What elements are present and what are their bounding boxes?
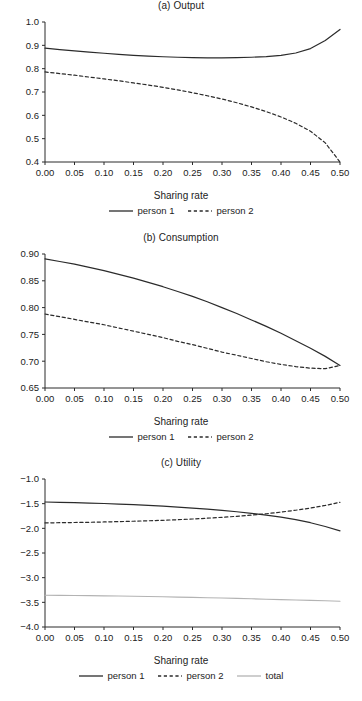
x-tick-label: 0.30 — [213, 167, 232, 178]
x-tick-label: 0.40 — [272, 393, 291, 404]
y-tick-label: −3.5 — [20, 597, 39, 608]
legend-label: person 2 — [187, 670, 224, 681]
legend-item: total — [237, 670, 284, 681]
panel-utility: (c) Utility −4.0−3.5−3.0−2.5−2.0−1.5−1.0… — [0, 457, 362, 701]
legend-item: person 2 — [188, 431, 254, 442]
y-tick-label: 0.75 — [21, 329, 40, 340]
x-tick-label: 0.25 — [183, 632, 202, 643]
x-tick-label: 0.50 — [331, 167, 350, 178]
series-line — [45, 502, 340, 531]
panel-b-title: (b) Consumption — [0, 232, 362, 244]
x-tick-label: 0.45 — [301, 632, 320, 643]
panel-b-plot: 0.650.700.750.800.850.900.000.050.100.15… — [0, 244, 362, 416]
x-tick-label: 0.15 — [124, 167, 143, 178]
y-tick-label: −1.5 — [20, 498, 39, 509]
panel-b-xlabel: Sharing rate — [0, 416, 362, 428]
y-tick-label: −3.0 — [20, 572, 39, 583]
series-line — [45, 595, 340, 601]
legend-item: person 1 — [109, 431, 175, 442]
y-tick-label: 0.5 — [26, 133, 39, 144]
panel-c-svg: −4.0−3.5−3.0−2.5−2.0−1.5−1.00.000.050.10… — [0, 469, 362, 655]
panel-b-legend: person 1person 2 — [0, 431, 362, 442]
x-tick-label: 0.45 — [301, 393, 320, 404]
y-tick-label: 0.70 — [21, 356, 40, 367]
legend-label: person 1 — [108, 670, 145, 681]
panel-consumption: (b) Consumption 0.650.700.750.800.850.90… — [0, 232, 362, 457]
legend-line-icon — [109, 433, 133, 441]
legend-item: person 2 — [188, 205, 254, 216]
x-tick-label: 0.10 — [95, 632, 114, 643]
legend-line-icon — [237, 672, 261, 680]
y-tick-label: 0.9 — [26, 40, 39, 51]
legend-label: person 2 — [217, 205, 254, 216]
legend-line-icon — [109, 207, 133, 215]
x-tick-label: 0.50 — [331, 393, 350, 404]
y-tick-label: −2.0 — [20, 523, 39, 534]
legend-line-icon — [158, 672, 182, 680]
legend-line-icon — [188, 433, 212, 441]
x-tick-label: 0.25 — [183, 167, 202, 178]
series-line — [45, 259, 340, 366]
x-tick-label: 0.05 — [65, 167, 84, 178]
legend-label: person 1 — [138, 431, 175, 442]
x-tick-label: 0.40 — [272, 167, 291, 178]
x-tick-label: 0.20 — [154, 632, 173, 643]
y-tick-label: −2.5 — [20, 547, 39, 558]
legend-item: person 2 — [158, 670, 224, 681]
panel-b-svg: 0.650.700.750.800.850.900.000.050.100.15… — [0, 244, 362, 416]
x-tick-label: 0.05 — [65, 393, 84, 404]
y-tick-label: 0.8 — [26, 63, 39, 74]
y-tick-label: 0.90 — [21, 248, 40, 259]
legend-item: person 1 — [79, 670, 145, 681]
panel-c-plot: −4.0−3.5−3.0−2.5−2.0−1.5−1.00.000.050.10… — [0, 469, 362, 655]
legend-item: person 1 — [109, 205, 175, 216]
x-tick-label: 0.35 — [242, 167, 261, 178]
y-tick-label: 0.85 — [21, 275, 40, 286]
x-tick-label: 0.00 — [36, 393, 55, 404]
legend-line-icon — [79, 672, 103, 680]
legend-label: person 2 — [217, 431, 254, 442]
y-tick-label: −1.0 — [20, 473, 39, 484]
x-tick-label: 0.50 — [331, 632, 350, 643]
legend-label: person 1 — [138, 205, 175, 216]
y-tick-label: 0.6 — [26, 110, 39, 121]
x-tick-label: 0.10 — [95, 393, 114, 404]
panel-c-title: (c) Utility — [0, 457, 362, 469]
x-tick-label: 0.25 — [183, 393, 202, 404]
legend-label: total — [266, 670, 284, 681]
x-tick-label: 0.45 — [301, 167, 320, 178]
panel-output: (a) Output 0.40.50.60.70.80.91.00.000.05… — [0, 0, 362, 232]
panel-a-title: (a) Output — [0, 0, 362, 12]
x-tick-label: 0.35 — [242, 632, 261, 643]
figure-three-panel-chart: (a) Output 0.40.50.60.70.80.91.00.000.05… — [0, 0, 362, 701]
series-line — [45, 29, 340, 57]
y-tick-label: 0.80 — [21, 302, 40, 313]
x-tick-label: 0.35 — [242, 393, 261, 404]
panel-a-legend: person 1person 2 — [0, 205, 362, 216]
panel-a-svg: 0.40.50.60.70.80.91.00.000.050.100.150.2… — [0, 12, 362, 190]
x-tick-label: 0.05 — [65, 632, 84, 643]
x-tick-label: 0.00 — [36, 632, 55, 643]
panel-a-xlabel: Sharing rate — [0, 190, 362, 202]
x-tick-label: 0.40 — [272, 632, 291, 643]
x-tick-label: 0.30 — [213, 632, 232, 643]
y-tick-label: 0.7 — [26, 86, 39, 97]
y-tick-label: 1.0 — [26, 16, 39, 27]
x-tick-label: 0.15 — [124, 632, 143, 643]
x-tick-label: 0.20 — [154, 393, 173, 404]
panel-c-xlabel: Sharing rate — [0, 655, 362, 667]
series-line — [45, 72, 340, 162]
legend-line-icon — [188, 207, 212, 215]
panel-a-plot: 0.40.50.60.70.80.91.00.000.050.100.150.2… — [0, 12, 362, 190]
x-tick-label: 0.20 — [154, 167, 173, 178]
x-tick-label: 0.10 — [95, 167, 114, 178]
panel-c-legend: person 1person 2total — [0, 670, 362, 681]
x-tick-label: 0.30 — [213, 393, 232, 404]
x-tick-label: 0.00 — [36, 167, 55, 178]
x-tick-label: 0.15 — [124, 393, 143, 404]
